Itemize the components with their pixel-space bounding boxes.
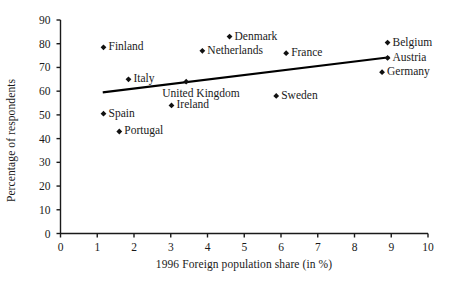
- data-point-marker: [126, 76, 132, 82]
- data-point-label: Spain: [108, 107, 134, 119]
- data-point-label: Netherlands: [207, 44, 263, 56]
- data-point-label: Portugal: [124, 124, 163, 136]
- data-point-marker: [379, 69, 385, 75]
- data-point-label: Sweden: [281, 89, 317, 101]
- y-tick-label: 60: [25, 85, 51, 97]
- data-point-marker: [183, 79, 189, 85]
- data-point-label: Germany: [387, 65, 430, 77]
- y-tick-label: 90: [25, 14, 51, 26]
- data-point-label: Belgium: [393, 36, 433, 48]
- x-tick-label: 5: [232, 241, 256, 253]
- x-tick-label: 8: [343, 241, 367, 253]
- data-point-marker: [199, 48, 205, 54]
- x-tick-label: 4: [196, 241, 220, 253]
- y-tick-label: 80: [25, 38, 51, 50]
- data-point-label: France: [291, 46, 322, 58]
- data-point-marker: [283, 50, 289, 56]
- chart-canvas: [0, 0, 452, 281]
- x-tick-label: 7: [306, 241, 330, 253]
- y-tick-label: 40: [25, 133, 51, 145]
- y-tick-label: 50: [25, 109, 51, 121]
- data-point-label: Denmark: [235, 30, 278, 42]
- data-point-marker: [273, 93, 279, 99]
- x-tick-label: 2: [122, 241, 146, 253]
- data-point-label: United Kingdom: [162, 87, 240, 99]
- data-point-label: Austria: [393, 51, 427, 63]
- data-point-label: Finland: [108, 40, 143, 52]
- x-tick-label: 0: [49, 241, 73, 253]
- data-point-marker: [385, 55, 391, 61]
- data-point-marker: [385, 40, 391, 46]
- scatter-chart: Percentage of respondents 1996 Foreign p…: [0, 0, 452, 281]
- data-point-label: Italy: [133, 72, 154, 84]
- data-point-marker: [101, 44, 107, 50]
- y-tick-label: 70: [25, 61, 51, 73]
- data-point-marker: [227, 34, 233, 40]
- x-tick-label: 10: [416, 241, 440, 253]
- x-tick-label: 1: [85, 241, 109, 253]
- data-point-label: Ireland: [176, 98, 209, 110]
- x-tick-label: 9: [379, 241, 403, 253]
- x-tick-label: 6: [269, 241, 293, 253]
- data-point-marker: [101, 111, 107, 117]
- y-tick-label: 20: [25, 180, 51, 192]
- data-point-marker: [116, 129, 122, 135]
- y-tick-label: 10: [25, 204, 51, 216]
- y-tick-label: 0: [25, 228, 51, 240]
- y-tick-label: 30: [25, 156, 51, 168]
- data-point-marker: [169, 103, 175, 109]
- x-tick-label: 3: [159, 241, 183, 253]
